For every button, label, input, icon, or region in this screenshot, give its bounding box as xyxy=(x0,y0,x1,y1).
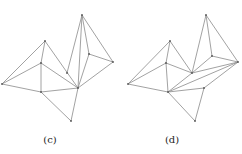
mesh-diagram xyxy=(0,0,242,154)
mesh-edge xyxy=(206,15,212,56)
caption-c: (c) xyxy=(30,134,70,145)
mesh-panel-d xyxy=(127,14,239,122)
mesh-panel-c xyxy=(1,14,114,122)
mesh-vertex xyxy=(112,61,114,63)
mesh-edge xyxy=(78,62,113,88)
mesh-vertex xyxy=(211,55,213,57)
caption-d: (d) xyxy=(152,134,192,145)
mesh-edge xyxy=(2,63,41,84)
mesh-edge xyxy=(170,41,192,73)
mesh-edge xyxy=(41,88,78,92)
mesh-edge xyxy=(128,84,168,92)
mesh-edge xyxy=(41,92,71,121)
mesh-edge xyxy=(168,92,195,121)
mesh-edge xyxy=(128,41,170,84)
mesh-edge xyxy=(206,15,238,62)
mesh-vertex xyxy=(77,87,79,89)
mesh-edge xyxy=(2,84,41,92)
mesh-vertex xyxy=(165,62,167,64)
mesh-vertex xyxy=(40,62,42,64)
mesh-vertex xyxy=(44,40,46,42)
mesh-edge xyxy=(89,54,113,62)
mesh-edge xyxy=(41,63,78,88)
mesh-vertex xyxy=(88,53,90,55)
mesh-edge xyxy=(67,15,82,73)
mesh-edge xyxy=(71,88,78,121)
mesh-vertex xyxy=(203,87,205,89)
mesh-vertex xyxy=(66,72,68,74)
mesh-vertex xyxy=(191,72,193,74)
mesh-vertex xyxy=(1,83,3,85)
mesh-vertex xyxy=(237,61,239,63)
mesh-vertex xyxy=(40,91,42,93)
mesh-edge xyxy=(195,88,204,121)
mesh-vertex xyxy=(169,40,171,42)
mesh-edge xyxy=(128,63,166,84)
mesh-edge xyxy=(82,15,113,62)
mesh-edge xyxy=(166,63,168,92)
mesh-edge xyxy=(192,15,206,73)
mesh-vertex xyxy=(127,83,129,85)
mesh-vertex xyxy=(81,14,83,16)
mesh-edge xyxy=(168,73,192,92)
mesh-edge xyxy=(2,41,45,84)
mesh-vertex xyxy=(205,14,207,16)
mesh-edge xyxy=(168,62,238,92)
mesh-vertex xyxy=(167,91,169,93)
mesh-vertex xyxy=(70,120,72,122)
mesh-vertex xyxy=(194,120,196,122)
